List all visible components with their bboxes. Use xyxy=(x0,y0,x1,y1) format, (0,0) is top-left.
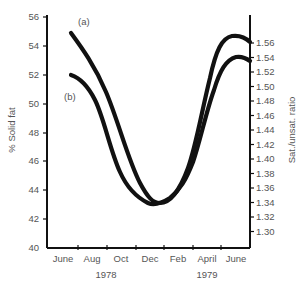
year-label-1978: 1978 xyxy=(95,269,116,280)
left-tick-label: 48 xyxy=(28,127,39,138)
right-tick-label: 1.34 xyxy=(256,197,275,208)
right-tick-label: 1.44 xyxy=(256,124,275,135)
month-label: Feb xyxy=(170,253,186,264)
left-axis-tick-labels: 56 54 52 50 48 46 44 42 40 xyxy=(28,11,39,253)
month-label: Oct xyxy=(114,253,129,264)
month-label: June xyxy=(226,253,247,264)
left-tick-label: 50 xyxy=(28,98,39,109)
series-b-label: (b) xyxy=(64,91,76,102)
solid-fat-chart: 56 54 52 50 48 46 44 42 40 % Solid fat 1… xyxy=(0,0,306,287)
left-tick-label: 56 xyxy=(28,11,39,22)
right-tick-label: 1.42 xyxy=(256,139,275,150)
month-label: Aug xyxy=(84,253,101,264)
month-label: Dec xyxy=(142,253,159,264)
year-label-1979: 1979 xyxy=(196,269,217,280)
right-axis-title: Sat./unsat. ratio xyxy=(286,97,297,164)
series-a-curve xyxy=(71,33,250,203)
right-tick-label: 1.48 xyxy=(256,95,275,106)
right-tick-label: 1.30 xyxy=(256,226,275,237)
right-tick-label: 1.52 xyxy=(256,66,275,77)
right-tick-label: 1.40 xyxy=(256,153,275,164)
series-a-label: (a) xyxy=(78,16,90,27)
right-tick-label: 1.46 xyxy=(256,110,275,121)
right-tick-label: 1.32 xyxy=(256,211,275,222)
left-axis-title: % Solid fat xyxy=(6,107,17,153)
right-axis-tick-labels: 1.56 1.54 1.52 1.50 1.48 1.46 1.44 1.42 … xyxy=(256,37,275,237)
left-tick-label: 52 xyxy=(28,69,39,80)
right-tick-label: 1.36 xyxy=(256,182,275,193)
right-tick-label: 1.56 xyxy=(256,37,275,48)
left-tick-label: 40 xyxy=(28,242,39,253)
left-tick-label: 46 xyxy=(28,155,39,166)
left-tick-label: 44 xyxy=(28,184,39,195)
month-label: June xyxy=(53,253,74,264)
left-tick-label: 54 xyxy=(28,40,39,51)
right-tick-label: 1.38 xyxy=(256,168,275,179)
right-tick-label: 1.54 xyxy=(256,52,275,63)
month-label: April xyxy=(197,253,216,264)
x-axis-tick-labels: June Aug Oct Dec Feb April June 1978 197… xyxy=(53,253,247,280)
left-tick-label: 42 xyxy=(28,213,39,224)
right-tick-label: 1.50 xyxy=(256,81,275,92)
